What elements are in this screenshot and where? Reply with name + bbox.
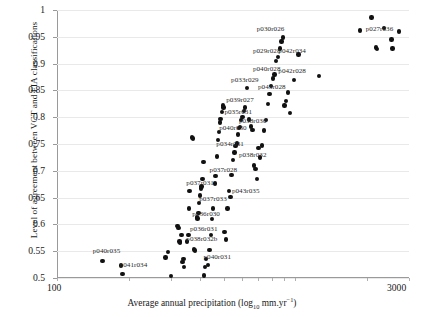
scatter-point [389, 37, 393, 41]
y-tick-label: 0.7 [5, 166, 45, 176]
point-label: p034r031 [216, 141, 244, 148]
scatter-point [317, 74, 321, 78]
scatter-point [176, 226, 180, 230]
scatter-point [181, 257, 185, 261]
scatter-point [369, 15, 373, 19]
x-tick-mark [295, 278, 296, 281]
x-tick-label: 100 [47, 282, 61, 293]
y-gridline [57, 224, 409, 225]
scatter-point [282, 103, 286, 107]
x-tick-mark [367, 278, 368, 281]
scatter-point [222, 230, 226, 234]
scatter-point [178, 240, 182, 244]
scatter-point [231, 158, 235, 162]
x-axis-title-post: ) [293, 298, 296, 308]
scatter-point [169, 274, 173, 278]
scatter-point [100, 259, 104, 263]
scatter-point [358, 28, 362, 32]
y-tick-mark [53, 117, 57, 118]
scatter-point [375, 47, 379, 51]
x-tick-mark [129, 278, 130, 281]
y-tick-mark [53, 251, 57, 252]
point-label: p036r031 [190, 226, 218, 233]
scatter-point [236, 132, 240, 136]
y-gridline [57, 10, 409, 11]
scatter-point [179, 233, 183, 237]
x-axis-title: Average annual precipitation (log10 mm.y… [0, 296, 424, 310]
scatter-point [253, 167, 257, 171]
scatter-point [163, 255, 167, 259]
plot-area: 10.950.90.850.80.750.70.650.60.550.51003… [57, 10, 409, 278]
point-label: p037r028 [210, 167, 238, 174]
scatter-point [201, 160, 205, 164]
scatter-point [292, 78, 296, 82]
y-gridline [57, 64, 409, 65]
y-tick-label: 1 [5, 5, 45, 15]
scatter-point [206, 263, 210, 267]
y-tick-mark [53, 37, 57, 38]
y-tick-mark [53, 10, 57, 11]
point-label: p043r035 [232, 188, 260, 195]
point-label: p039r027 [226, 97, 254, 104]
scatter-point [225, 206, 229, 210]
point-label: p035r031 [224, 109, 252, 116]
scatter-point [224, 237, 228, 241]
scatter-point [182, 265, 186, 269]
scatter-point [281, 35, 285, 39]
scatter-point [213, 174, 217, 178]
point-label: p037r031 [186, 180, 214, 187]
y-tick-label: 0.9 [5, 59, 45, 69]
scatter-point [266, 102, 270, 106]
point-label: p030r026 [257, 26, 285, 33]
scatter-point [218, 117, 222, 121]
cut-off-title-fragment [60, 0, 360, 4]
y-tick-mark [53, 198, 57, 199]
x-axis-title-pre: Average annual precipitation (log [128, 298, 254, 308]
scatter-point [260, 143, 264, 147]
scatter-point [207, 248, 211, 252]
scatter-point [390, 46, 394, 50]
scatter-point [191, 136, 195, 140]
y-tick-label: 0.8 [5, 112, 45, 122]
scatter-point [271, 76, 275, 80]
point-label: p040r030 [219, 125, 247, 132]
x-tick-mark [242, 278, 243, 281]
point-label: p040r035 [93, 248, 121, 255]
y-tick-label: 0.5 [5, 273, 45, 283]
y-tick-mark [53, 64, 57, 65]
scatter-point [288, 111, 292, 115]
point-label: p038r032b [186, 236, 217, 243]
point-label: p041r034 [120, 262, 148, 269]
point-label: p029r028 [253, 48, 281, 55]
point-label: p042r034 [278, 48, 306, 55]
point-label: p036r030 [192, 211, 220, 218]
scatter-point [255, 177, 259, 181]
scatter-point [202, 273, 206, 277]
y-tick-label: 0.6 [5, 219, 45, 229]
y-tick-label: 0.75 [5, 139, 45, 149]
scatter-point [274, 59, 278, 63]
y-tick-label: 0.95 [5, 32, 45, 42]
x-tick-mark [171, 278, 172, 281]
scatter-point [250, 128, 254, 132]
scatter-point [232, 150, 236, 154]
scatter-point [193, 248, 197, 252]
scatter-point [262, 128, 266, 132]
x-axis-title-mid: mm.yr [259, 298, 286, 308]
scatter-point [187, 206, 191, 210]
scatter-point [245, 86, 249, 90]
point-label: p027r036 [366, 26, 394, 33]
y-gridline [57, 278, 409, 279]
scatter-point [215, 154, 219, 158]
x-tick-mark [272, 278, 273, 281]
scatter-point [276, 55, 280, 59]
scatter-point [397, 29, 401, 33]
scatter-point [120, 272, 124, 276]
y-gridline [57, 37, 409, 38]
point-label: p040r031 [203, 254, 231, 261]
y-tick-mark [53, 171, 57, 172]
x-tick-mark [57, 278, 58, 281]
x-tick-mark [284, 278, 285, 281]
x-tick-label: 3000 [387, 282, 406, 293]
scatter-point [228, 195, 232, 199]
